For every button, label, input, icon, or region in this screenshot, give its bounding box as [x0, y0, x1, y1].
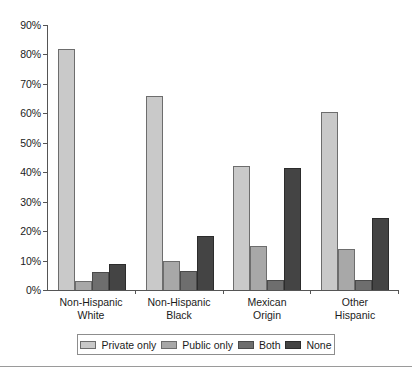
- legend-item-label: Public only: [182, 339, 233, 351]
- bar: [355, 280, 372, 290]
- bar-group: [48, 25, 136, 290]
- x-axis-category-label-line1: Non-Hispanic: [59, 296, 122, 308]
- legend-item-label: Both: [259, 339, 281, 351]
- bar: [321, 112, 338, 290]
- legend-item: Both: [238, 339, 281, 351]
- y-axis-tick-label: 60%: [20, 107, 48, 119]
- legend-item: None: [285, 339, 331, 351]
- bar: [92, 272, 109, 290]
- y-axis-tick-label: 90%: [20, 19, 48, 31]
- x-axis-category-label-line1: Mexican: [247, 296, 286, 308]
- x-axis-category-label: Non-HispanicBlack: [135, 296, 223, 321]
- bar: [163, 261, 180, 290]
- bar: [372, 218, 389, 290]
- y-axis-tick-label: 20%: [20, 225, 48, 237]
- y-axis-tick-label: 50%: [20, 137, 48, 149]
- bar: [250, 246, 267, 290]
- bar: [284, 168, 301, 290]
- x-axis-category-label: OtherHispanic: [311, 296, 399, 321]
- chart-legend: Private onlyPublic onlyBothNone: [77, 334, 335, 355]
- bar: [58, 49, 75, 290]
- bar: [267, 280, 284, 290]
- x-axis-category-label-line1: Non-Hispanic: [147, 296, 210, 308]
- y-axis-tick-label: 40%: [20, 166, 48, 178]
- bars-layer: [48, 25, 399, 290]
- footer-divider: [0, 366, 412, 367]
- x-axis-category-label-line2: White: [47, 309, 135, 322]
- y-axis-tick-label: 70%: [20, 78, 48, 90]
- bar: [109, 264, 126, 291]
- legend-item-label: Private only: [101, 339, 156, 351]
- bar-group-bars: [48, 25, 136, 290]
- x-axis-category-label-line2: Hispanic: [311, 309, 399, 322]
- legend-swatch-icon: [285, 341, 301, 349]
- bar-group: [311, 25, 399, 290]
- bar: [233, 166, 250, 290]
- y-axis-tick-label: 80%: [20, 48, 48, 60]
- legend-swatch-icon: [80, 341, 96, 349]
- legend-swatch-icon: [161, 341, 177, 349]
- bar-group-bars: [311, 25, 399, 290]
- bar-group: [224, 25, 312, 290]
- y-axis-tick-label: 0%: [26, 284, 48, 296]
- bar: [338, 249, 355, 290]
- x-axis-category-label: Non-HispanicWhite: [47, 296, 135, 321]
- bar-group-bars: [136, 25, 224, 290]
- plot-area: 90%80%70%60%50%40%30%20%10%0%: [47, 25, 399, 291]
- x-axis-category-label-line2: Origin: [223, 309, 311, 322]
- x-axis-labels: Non-HispanicWhiteNon-HispanicBlackMexica…: [47, 296, 399, 321]
- y-axis-tick-label: 30%: [20, 196, 48, 208]
- bar: [75, 281, 92, 290]
- grouped-bar-chart: 90%80%70%60%50%40%30%20%10%0% Non-Hispan…: [0, 0, 412, 374]
- legend-item-label: None: [306, 339, 331, 351]
- bar-group: [136, 25, 224, 290]
- bar: [146, 96, 163, 290]
- y-axis-tick-label: 10%: [20, 255, 48, 267]
- x-axis-category-label: MexicanOrigin: [223, 296, 311, 321]
- x-axis-category-label-line1: Other: [342, 296, 368, 308]
- bar-group-bars: [224, 25, 312, 290]
- legend-swatch-icon: [238, 341, 254, 349]
- legend-item: Private only: [80, 339, 156, 351]
- legend-item: Public only: [161, 339, 233, 351]
- bar: [180, 271, 197, 290]
- x-axis-category-label-line2: Black: [135, 309, 223, 322]
- bar: [197, 236, 214, 290]
